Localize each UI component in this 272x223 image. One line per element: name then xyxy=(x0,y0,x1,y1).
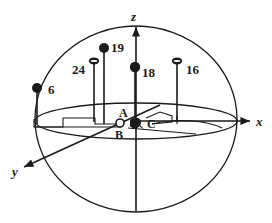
axis-label-y: y xyxy=(10,164,18,179)
stem-marker-19 xyxy=(99,43,109,53)
node-marker-B xyxy=(116,119,124,127)
diagram-canvas: 6 24 19 18 16 A B C z x y xyxy=(0,0,272,223)
stem-marker-18 xyxy=(130,62,140,72)
axis-label-z: z xyxy=(130,9,137,24)
projection-polyline-left xyxy=(34,118,121,127)
stem-label-18: 18 xyxy=(142,65,156,80)
b-connector-line xyxy=(128,128,196,134)
stem-marker-16-inner xyxy=(174,60,181,62)
y-axis xyxy=(24,105,160,167)
node-marker-C-tail xyxy=(139,124,144,129)
stem-marker-6 xyxy=(32,83,42,93)
stem-label-19: 19 xyxy=(111,40,125,55)
stem-label-6: 6 xyxy=(48,82,55,97)
node-label-C: C xyxy=(147,117,156,131)
node-label-B: B xyxy=(115,128,123,142)
stem-label-16: 16 xyxy=(186,62,200,77)
node-label-A: A xyxy=(119,106,128,120)
stem-marker-24-inner xyxy=(91,60,98,62)
stem-label-24: 24 xyxy=(72,62,86,77)
node-marker-C xyxy=(130,118,141,129)
axis-label-x: x xyxy=(255,114,263,129)
sphere-diagram: 6 24 19 18 16 A B C z x y xyxy=(0,0,272,223)
